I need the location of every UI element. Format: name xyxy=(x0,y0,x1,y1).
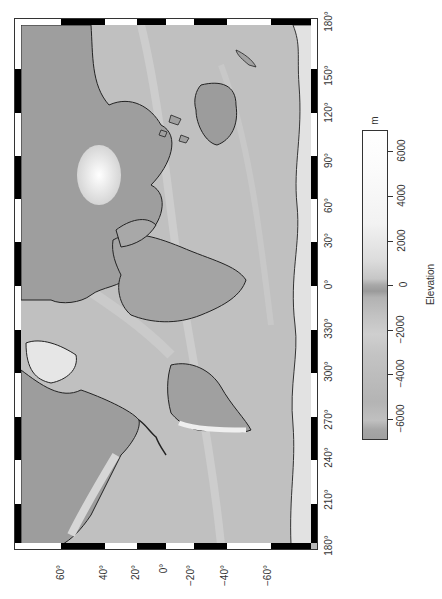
lon-label: 180° xyxy=(323,535,334,556)
lon-label: 30° xyxy=(323,233,334,248)
colorbar-tick-label: 4000 xyxy=(396,184,407,206)
colorbar-tick xyxy=(388,196,393,197)
colorbar-tick-label: 6000 xyxy=(396,139,407,161)
lon-label: 210° xyxy=(323,489,334,510)
colorbar-title: Elevation xyxy=(425,264,436,305)
lat-label: 60° xyxy=(55,565,66,580)
lat-label: 20° xyxy=(130,565,141,580)
colorbar-unit-label: m xyxy=(369,116,380,124)
lon-label: 240° xyxy=(323,447,334,468)
lon-label: 270° xyxy=(323,409,334,430)
lon-label: 300° xyxy=(323,361,334,382)
lon-label: 330° xyxy=(323,318,334,339)
lat-label: 40° xyxy=(98,565,109,580)
lon-label: 120° xyxy=(323,102,334,123)
lon-label: 60° xyxy=(323,198,334,213)
elevation-raster xyxy=(21,25,311,543)
lon-label: 180° xyxy=(323,11,334,32)
lat-label: −40° xyxy=(219,565,230,586)
lat-label: 0° xyxy=(158,564,169,574)
lon-label: 150° xyxy=(323,65,334,86)
frame-strip-bottom xyxy=(15,543,317,549)
lat-label: −20° xyxy=(185,565,196,586)
colorbar-tick-label: −4000 xyxy=(395,359,406,387)
colorbar-tick xyxy=(388,419,393,420)
colorbar-tick-label: 2000 xyxy=(396,229,407,251)
lon-label: 90° xyxy=(323,153,334,168)
colorbar-tick-label: −6000 xyxy=(395,404,406,432)
colorbar-tick xyxy=(388,151,393,152)
colorbar-tick xyxy=(388,374,393,375)
colorbar-tick xyxy=(388,285,393,286)
colorbar-tick-label: −2000 xyxy=(395,315,406,343)
elevation-map xyxy=(21,25,311,543)
colorbar-tick xyxy=(388,330,393,331)
colorbar xyxy=(362,130,388,440)
colorbar-tick-label: 0 xyxy=(398,282,409,288)
frame-strip-right xyxy=(311,19,317,549)
lat-label: −60° xyxy=(262,565,273,586)
lon-label: 0° xyxy=(323,280,334,290)
map-frame xyxy=(14,18,318,550)
colorbar-tick xyxy=(388,241,393,242)
